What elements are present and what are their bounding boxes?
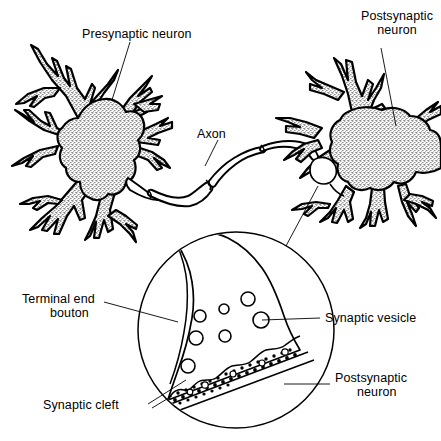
bouton-axon-neck [152,242,176,252]
synaptic-vesicle [219,304,229,314]
synaptic-vesicle [189,331,203,345]
diagram-canvas: Presynaptic neuron Postsynaptic neuron A… [0,0,441,441]
label-postsynaptic-neuron-inset-line2: neuron [357,385,397,399]
label-presynaptic-neuron: Presynaptic neuron [82,27,192,41]
presynaptic-dendrite-left [12,110,64,167]
synapse-diagram: Presynaptic neuron Postsynaptic neuron A… [0,0,441,441]
synaptic-vesicle [181,359,195,373]
label-terminal-end-line1: Terminal end [22,292,95,306]
label-postsynaptic-neuron-top-line1: Postsynaptic [361,9,433,23]
label-postsynaptic-neuron-top-line2: neuron [377,23,417,37]
docked-vesicle [202,382,208,388]
postsynaptic-dendrite-lower-right [398,184,436,226]
docked-vesicle [259,360,265,366]
axon-segment-1 [148,182,213,206]
presynaptic-neuron [12,45,172,242]
label-synaptic-vesicle: Synaptic vesicle [325,311,416,325]
label-postsynaptic-neuron-inset-line1: Postsynaptic [335,371,407,385]
synaptic-vesicle [219,330,231,342]
magnifier-leader-line [286,186,318,246]
leader-axon [205,140,218,166]
label-terminal-end-line2: bouton [50,306,89,320]
label-axon: Axon [197,127,226,141]
docked-vesicle [282,349,288,355]
presynaptic-dendrite-lower-left [20,178,88,234]
terminal-end-bouton-contact [310,157,336,184]
label-synaptic-cleft: Synaptic cleft [43,398,119,412]
postsynaptic-dendrite-lower-middle [360,188,388,228]
axon-segment-2 [209,147,266,187]
synaptic-vesicle [194,310,206,322]
leader-presynaptic-neuron [112,42,130,100]
docked-vesicle [187,389,193,395]
docked-vesicle [230,371,236,377]
synaptic-vesicle [241,292,255,306]
